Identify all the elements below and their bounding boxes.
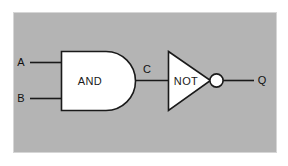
input-label-a: A bbox=[17, 56, 25, 68]
not-gate-bubble-icon bbox=[210, 74, 223, 87]
input-label-b: B bbox=[17, 92, 24, 104]
net-label-c: C bbox=[143, 63, 151, 75]
and-gate-label: AND bbox=[78, 75, 102, 87]
output-label-q: Q bbox=[258, 74, 267, 86]
circuit-canvas: A B AND C NOT Q bbox=[0, 0, 288, 166]
not-gate-label: NOT bbox=[174, 75, 198, 87]
diagram-panel bbox=[14, 13, 277, 153]
logic-circuit-diagram: A B AND C NOT Q bbox=[0, 0, 288, 166]
and-gate: AND bbox=[62, 52, 136, 111]
